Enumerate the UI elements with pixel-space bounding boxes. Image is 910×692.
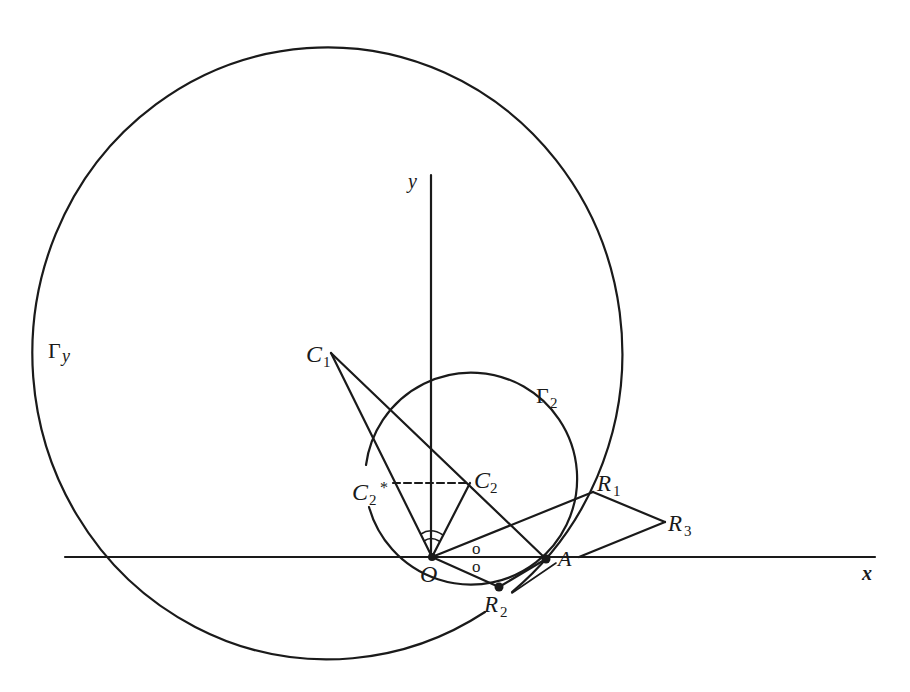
- angle-mark-bottom: o: [472, 557, 481, 576]
- label-r3: R 3: [667, 511, 692, 539]
- label-r2: R 2: [483, 592, 508, 620]
- svg-text:C: C: [352, 479, 369, 505]
- point-r2: [495, 583, 504, 592]
- label-c2-star: C 2 *: [352, 479, 388, 508]
- label-r1: R 1: [596, 471, 621, 499]
- svg-text:1: 1: [613, 483, 621, 499]
- svg-text:Γ: Γ: [536, 383, 549, 408]
- line-o-c2: [432, 483, 470, 557]
- label-c2: C 2: [474, 467, 498, 496]
- label-c1: C 1: [306, 341, 331, 370]
- svg-text:2: 2: [490, 480, 498, 496]
- geometry-diagram: y x O A Γ y Γ 2 C 1 C 2 C 2 * R 1 R 2 R …: [0, 0, 910, 692]
- label-a: A: [556, 546, 572, 571]
- svg-text:3: 3: [684, 523, 692, 539]
- svg-text:*: *: [380, 479, 388, 496]
- line-r1-r3: [593, 492, 665, 522]
- svg-text:2: 2: [369, 492, 377, 508]
- label-x-axis: x: [861, 562, 872, 584]
- svg-text:2: 2: [550, 395, 558, 411]
- svg-text:1: 1: [323, 354, 331, 370]
- line-c1-o: [331, 353, 432, 557]
- line-r3-a: [579, 522, 665, 557]
- svg-text:R: R: [667, 511, 682, 536]
- line-c1-a: [331, 353, 546, 559]
- angle-mark-top: o: [472, 539, 481, 558]
- label-gamma-2: Γ 2: [536, 383, 558, 411]
- point-o: [428, 553, 436, 561]
- label-y-axis: y: [406, 170, 417, 193]
- line-o-r2: [432, 557, 499, 587]
- svg-text:R: R: [483, 592, 498, 617]
- label-gamma-y: Γ y: [48, 338, 70, 366]
- svg-text:2: 2: [500, 604, 508, 620]
- label-origin: O: [420, 561, 437, 587]
- tangent-line-at-a: [512, 563, 556, 593]
- svg-text:C: C: [474, 467, 491, 493]
- svg-text:y: y: [60, 346, 70, 366]
- svg-text:C: C: [306, 341, 323, 367]
- point-a: [542, 555, 551, 564]
- svg-text:Γ: Γ: [48, 338, 61, 363]
- svg-text:R: R: [596, 471, 611, 496]
